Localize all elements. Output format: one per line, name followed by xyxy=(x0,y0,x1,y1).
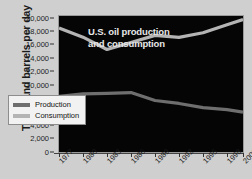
y-tick-label: 10,000 xyxy=(5,80,49,89)
chart-title-line-2: and consumption xyxy=(88,38,184,50)
chart-legend: Production Consumption xyxy=(8,95,86,125)
legend-label-consumption: Consumption xyxy=(35,111,79,120)
y-tick-mark xyxy=(50,44,54,45)
chart-title-line-1: U.S. oil production xyxy=(88,26,184,38)
x-axis-tick-labels: 197719801983198619891992199519982000 xyxy=(58,153,244,179)
y-tick-mark xyxy=(50,151,54,152)
y-tick-mark xyxy=(50,71,54,72)
legend-item-production: Production xyxy=(13,99,79,110)
legend-label-production: Production xyxy=(35,100,71,109)
y-tick-label: 14,000 xyxy=(5,53,49,62)
y-tick-label: 20,000 xyxy=(5,13,49,22)
legend-swatch-consumption xyxy=(13,114,30,118)
chart-title: U.S. oil production and consumption xyxy=(88,26,184,50)
y-tick-mark xyxy=(50,84,54,85)
y-tick-mark xyxy=(50,57,54,58)
y-axis-tick-labels: 02,0004,0006,0008,00010,00012,00014,0001… xyxy=(10,0,54,179)
legend-item-consumption: Consumption xyxy=(13,110,79,121)
y-tick-mark xyxy=(50,30,54,31)
y-tick-mark xyxy=(50,138,54,139)
legend-swatch-production xyxy=(13,103,30,107)
y-tick-label: 0 xyxy=(5,147,49,156)
y-tick-mark xyxy=(50,17,54,18)
y-tick-label: 12,000 xyxy=(5,67,49,76)
y-tick-label: 2,000 xyxy=(5,134,49,143)
chart-figure: Thousand barrels per day 02,0004,0006,00… xyxy=(0,0,252,179)
series-line-production xyxy=(59,93,243,113)
y-tick-label: 16,000 xyxy=(5,40,49,49)
y-tick-label: 18,000 xyxy=(5,26,49,35)
